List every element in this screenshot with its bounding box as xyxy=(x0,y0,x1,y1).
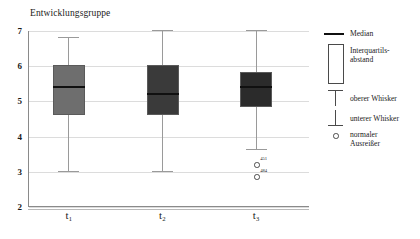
legend-label-median: Median xyxy=(350,29,373,38)
iqr-box xyxy=(53,65,85,115)
x-axis-tick-label-t1: t₁ xyxy=(39,210,99,221)
upper-whisker-line xyxy=(68,37,69,66)
y-axis-tick-label: 5 xyxy=(0,97,22,106)
legend-item-upper-whisker: oberer Whisker xyxy=(322,88,418,109)
legend-item-outlier: normaler Ausreißer xyxy=(322,130,418,154)
median-line xyxy=(53,86,85,88)
y-axis-tick-label: 7 xyxy=(0,27,22,36)
y-axis-tick-label: 4 xyxy=(0,133,22,142)
x-axis-tick-label-t3: t₃ xyxy=(226,210,286,221)
chart-title: Entwicklungsgruppe xyxy=(30,8,110,18)
legend-label-iqr-line1: Interquartils- xyxy=(350,46,390,55)
outlier-label: 484 xyxy=(260,168,267,173)
legend-label-upper-whisker: oberer Whisker xyxy=(350,94,397,103)
outlier-point xyxy=(254,162,260,168)
lower-whisker-stem-icon xyxy=(335,110,336,126)
plot-area: 451484 xyxy=(28,31,309,207)
legend-label-iqr-line2: abstand xyxy=(350,55,373,64)
legend-label-outlier-line2: Ausreißer xyxy=(350,139,380,148)
legend-item-iqr: Interquartils- abstand xyxy=(322,42,418,88)
gridline xyxy=(29,207,309,208)
outlier-label: 451 xyxy=(260,156,267,161)
upper-whisker-cap xyxy=(58,37,79,38)
median-line xyxy=(240,86,272,88)
median-line xyxy=(147,93,179,95)
legend-item-lower-whisker: unterer Whisker xyxy=(322,109,418,130)
lower-whisker-line xyxy=(256,107,257,149)
lower-whisker-cap xyxy=(246,149,267,150)
iqr-box xyxy=(240,72,272,107)
boxplot-figure: Entwicklungsgruppe 451484 765432 t₁t₂t₃ … xyxy=(0,0,420,239)
lower-whisker-line xyxy=(162,115,163,171)
y-axis-tick-label: 2 xyxy=(0,203,22,212)
lower-whisker-line xyxy=(68,115,69,171)
median-swatch-icon xyxy=(324,33,344,35)
upper-whisker-line xyxy=(162,30,163,65)
iqr-swatch-icon xyxy=(328,44,344,84)
upper-whisker-line xyxy=(256,30,257,72)
box-group-t1 xyxy=(39,31,99,207)
upper-whisker-cap xyxy=(246,30,267,31)
upper-whisker-cap xyxy=(152,30,173,31)
x-axis-tick-label-t2: t₂ xyxy=(133,210,193,221)
legend: Median Interquartils- abstand oberer Whi… xyxy=(322,28,418,154)
outlier-point xyxy=(254,174,260,180)
legend-label-lower-whisker: unterer Whisker xyxy=(350,114,399,123)
outlier-swatch-icon xyxy=(333,133,339,139)
lower-whisker-cap xyxy=(58,171,79,172)
box-group-t3: 451484 xyxy=(226,31,286,207)
y-axis-tick-label: 3 xyxy=(0,168,22,177)
box-group-t2 xyxy=(133,31,193,207)
lower-whisker-cap-icon xyxy=(328,125,343,126)
legend-label-outlier-line1: normaler xyxy=(350,130,377,139)
iqr-box xyxy=(147,65,179,115)
upper-whisker-stem-icon xyxy=(335,90,336,106)
lower-whisker-cap xyxy=(152,171,173,172)
y-axis-line xyxy=(28,31,29,207)
legend-item-median: Median xyxy=(322,28,418,42)
y-axis-tick-label: 6 xyxy=(0,62,22,71)
